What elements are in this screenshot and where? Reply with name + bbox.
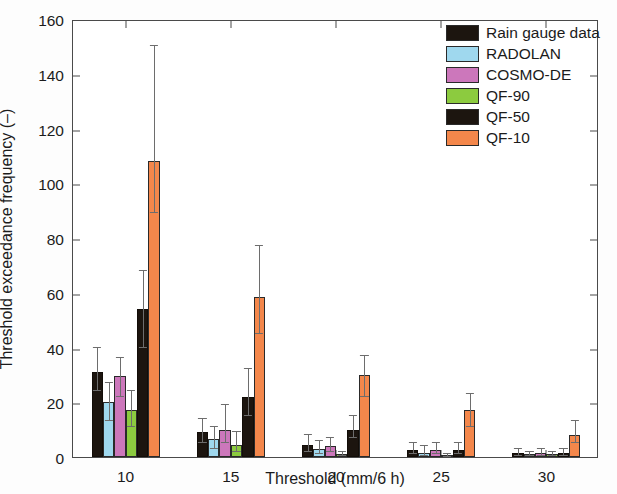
legend-swatch-icon (446, 109, 479, 125)
error-bar-cap-lower (210, 448, 218, 449)
error-bar-cap-lower (255, 333, 263, 334)
error-bar-cap-upper (255, 245, 263, 246)
error-bar-cap-upper (559, 448, 567, 449)
error-bar (214, 427, 215, 449)
legend-item-qf-10[interactable]: QF-10 (446, 128, 600, 147)
x-axis-label: Threshold (mm/6 h) (72, 470, 598, 488)
y-axis-tick-label: 160 (38, 12, 73, 30)
error-bar-cap-upper (198, 418, 206, 419)
error-bar (248, 369, 249, 416)
legend-item-label: QF-50 (486, 108, 530, 126)
error-bar-cap-upper (150, 45, 158, 46)
y-axis-tick-mark (590, 240, 597, 241)
error-bar-cap-lower (338, 455, 346, 456)
y-axis-tick-label: 0 (55, 450, 73, 468)
error-bar-cap-lower (360, 396, 368, 397)
legend-swatch-icon (446, 67, 479, 83)
error-bar (109, 383, 110, 421)
legend-swatch-icon (446, 130, 479, 146)
y-axis-tick-label: 120 (38, 122, 73, 140)
legend-item-radolan[interactable]: RADOLAN (446, 44, 600, 63)
error-bar (575, 421, 576, 443)
error-bar-cap-upper (104, 382, 112, 383)
y-axis-tick-mark (73, 75, 80, 76)
error-bar-cap-upper (304, 434, 312, 435)
error-bar-cap-lower (244, 415, 252, 416)
error-bar (120, 358, 121, 396)
x-axis-tick-mark (125, 21, 126, 28)
error-bar-cap-lower (409, 453, 417, 454)
legend-item-label: Rain gauge data (486, 24, 600, 42)
legend-item-label: QF-10 (486, 129, 530, 147)
y-axis-tick-mark (73, 404, 80, 405)
legend-item-rain-gauge-data[interactable]: Rain gauge data (446, 23, 600, 42)
error-bar-cap-lower (420, 455, 428, 456)
error-bar-cap-upper (420, 445, 428, 446)
error-bar-cap-upper (139, 270, 147, 271)
legend-item-label: QF-90 (486, 87, 530, 105)
error-bar-cap-upper (360, 355, 368, 356)
y-axis-tick-mark (73, 349, 80, 350)
error-bar (131, 391, 132, 427)
error-bar-cap-upper (443, 453, 451, 454)
legend-item-cosmo-de[interactable]: COSMO-DE (446, 65, 600, 84)
error-bar (308, 435, 309, 451)
legend-item-label: COSMO-DE (486, 66, 571, 84)
y-axis-tick-label: 20 (47, 395, 73, 413)
error-bar-cap-lower (93, 390, 101, 391)
y-axis-tick-mark (73, 294, 80, 295)
legend-swatch-icon (446, 25, 479, 41)
error-bar-cap-lower (466, 426, 474, 427)
legend-item-qf-50[interactable]: QF-50 (446, 107, 600, 126)
error-bar-cap-upper (409, 442, 417, 443)
error-bar-cap-lower (139, 347, 147, 348)
error-bar-cap-lower (454, 453, 462, 454)
legend-item-label: RADOLAN (486, 45, 561, 63)
error-bar-cap-upper (232, 431, 240, 432)
legend-swatch-icon (446, 88, 479, 104)
y-axis-tick-label: 80 (47, 231, 73, 249)
y-axis-tick-mark (590, 404, 597, 405)
error-bar (202, 419, 203, 444)
error-bar-cap-lower (304, 451, 312, 452)
error-bar (364, 356, 365, 397)
error-bar-cap-upper (244, 368, 252, 369)
error-bar-cap-upper (514, 448, 522, 449)
bar-chart-figure: 0204060801001201401601015202530 Threshol… (0, 0, 617, 494)
error-bar-cap-lower (221, 442, 229, 443)
error-bar-cap-upper (548, 451, 556, 452)
error-bar-cap-lower (548, 455, 556, 456)
error-bar-cap-upper (315, 440, 323, 441)
error-bar-cap-upper (338, 451, 346, 452)
error-bar (353, 416, 354, 438)
y-axis-tick-mark (590, 185, 597, 186)
error-bar-cap-upper (127, 390, 135, 391)
error-bar (319, 441, 320, 455)
y-axis-tick-mark (73, 130, 80, 131)
error-bar-cap-lower (349, 437, 357, 438)
error-bar-cap-upper (537, 448, 545, 449)
x-axis-tick-mark (230, 21, 231, 28)
y-axis-label: Threshold exceedance frequency (–) (0, 109, 16, 370)
error-bar-cap-upper (116, 357, 124, 358)
error-bar-cap-lower (559, 455, 567, 456)
error-bar-cap-lower (198, 442, 206, 443)
legend-item-qf-90[interactable]: QF-90 (446, 86, 600, 105)
y-axis-tick-mark (73, 240, 80, 241)
error-bar-cap-lower (104, 420, 112, 421)
error-bar-cap-lower (315, 453, 323, 454)
x-axis-tick-mark (441, 21, 442, 28)
error-bar-cap-lower (525, 455, 533, 456)
x-axis-tick-mark (336, 21, 337, 28)
y-axis-tick-label: 140 (38, 67, 73, 85)
error-bar (225, 405, 226, 443)
y-axis-tick-label: 60 (47, 286, 73, 304)
error-bar (97, 348, 98, 392)
error-bar-cap-lower (232, 451, 240, 452)
chart-legend: Rain gauge dataRADOLANCOSMO-DEQF-90QF-50… (443, 20, 604, 150)
y-axis-tick-mark (590, 349, 597, 350)
error-bar-cap-lower (116, 396, 124, 397)
error-bar-cap-upper (210, 426, 218, 427)
error-bar-cap-lower (514, 455, 522, 456)
error-bar-cap-upper (221, 404, 229, 405)
